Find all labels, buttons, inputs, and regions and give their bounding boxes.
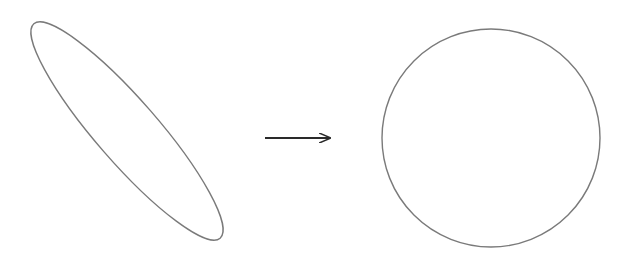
- diagram-svg: [0, 0, 621, 268]
- tilted-ellipse: [10, 3, 243, 258]
- result-circle: [382, 29, 600, 247]
- diagram-canvas: ellipse transforms to circle: [0, 0, 621, 268]
